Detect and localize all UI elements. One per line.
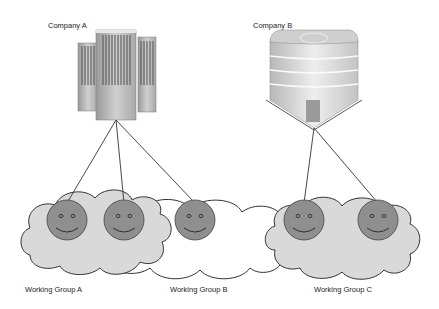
smiley-icon — [47, 200, 87, 240]
working-group-c-label: Working Group C — [314, 285, 372, 294]
diagram-canvas — [0, 0, 439, 309]
smiley-icon — [284, 200, 324, 240]
company-b-label: Company B — [253, 21, 292, 30]
working-group-a-label: Working Group A — [25, 285, 82, 294]
smiley-icon — [104, 200, 144, 240]
working-group-b-label: Working Group B — [170, 285, 227, 294]
smiley-icon — [358, 200, 398, 240]
cloud-working-group-a — [21, 190, 171, 275]
office-towers-icon — [78, 30, 156, 120]
round-building-icon — [266, 30, 362, 130]
company-a-label: Company A — [48, 21, 87, 30]
smiley-icon — [175, 200, 215, 240]
